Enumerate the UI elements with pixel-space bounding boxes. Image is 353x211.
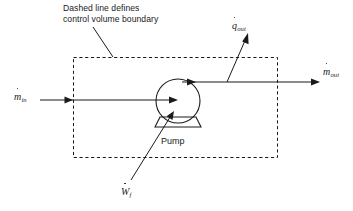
work-in-letter: W: [121, 186, 129, 197]
mass-in-subscript: in: [21, 96, 26, 103]
mass-out-subscript: out: [330, 71, 339, 78]
control-volume-caption: Dashed line defines control volume bound…: [63, 3, 158, 25]
outlet-end-arrowhead: [311, 78, 320, 85]
pump-base: [155, 117, 201, 127]
heat-out-subscript: out: [237, 25, 246, 32]
caption-leader-line: [93, 27, 113, 57]
heat-out-symbol: qout: [232, 20, 246, 31]
caption-line-1: Dashed line defines: [63, 3, 158, 14]
inlet-boundary-arrowhead: [65, 97, 74, 104]
caption-line-2: control volume boundary: [63, 14, 158, 25]
mass-out-symbol: mout: [323, 66, 339, 77]
pump-body-circle: [156, 79, 200, 123]
diagram-canvas: [0, 0, 353, 211]
work-in-rate-dot: [124, 183, 126, 185]
work-in-arrowhead: [167, 111, 174, 120]
work-in-symbol: Wf: [121, 186, 131, 197]
work-in-base: W: [121, 186, 129, 197]
heat-out-label: qout: [232, 20, 246, 31]
mass-out-label: mout: [323, 66, 339, 77]
heat-out-arrowhead: [242, 33, 248, 44]
inlet-pump-arrowhead: [169, 96, 178, 103]
pump-label: Pump: [161, 136, 185, 146]
pump-control-volume-diagram: Dashed line defines control volume bound…: [0, 0, 353, 211]
mass-in-symbol: min: [14, 91, 27, 102]
mass-in-label: min: [14, 91, 27, 102]
work-in-arrow-line: [131, 114, 172, 180]
work-in-label: Wf: [121, 186, 131, 197]
heat-out-arrow-line: [227, 36, 247, 82]
